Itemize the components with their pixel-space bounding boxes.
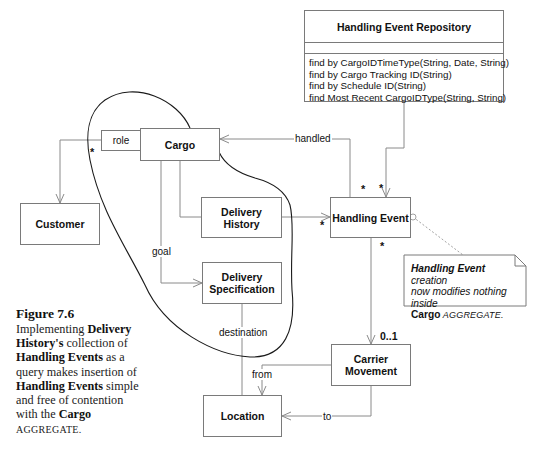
location-class: Location [203, 395, 282, 437]
figure-caption-body: Implementing Delivery History's collecti… [16, 322, 146, 438]
role-multiplicity: * [90, 147, 94, 158]
handling-event-class: Handling Event [330, 197, 411, 238]
carrier-multiplicity: 0..1 [380, 331, 398, 342]
history-multiplicity: * [320, 220, 324, 231]
note-connector-line [413, 217, 463, 255]
note: Handling Event creation now modifies not… [404, 255, 526, 306]
role-label: role [113, 135, 130, 147]
repository-attributes [305, 43, 503, 54]
customer-class: Customer [20, 203, 100, 245]
handled-association-line [220, 139, 350, 197]
event-bottom-multiplicity: * [380, 241, 384, 252]
caption-text: AGGREGATE. [16, 424, 82, 435]
cargo-history-line [180, 160, 201, 217]
figure-title: Figure 7.6 [16, 306, 146, 322]
caption-text: collection of [63, 336, 127, 350]
carrier-movement-class: Carrier Movement [331, 344, 411, 386]
note-text-1: creation [411, 275, 447, 286]
repository-association-line [386, 102, 404, 197]
handled-multiplicity: * [361, 184, 365, 195]
destination-label: destination [218, 327, 268, 338]
repository-multiplicity: * [379, 183, 383, 194]
repository-method: find Most Recent CargoIDType(String, Str… [309, 92, 499, 104]
handling-event-name: Handling Event [332, 212, 408, 224]
delivery-specification-name-line1: Delivery [222, 271, 263, 283]
repository-method: find by CargoIDTimeType(String, Date, St… [309, 57, 499, 69]
goal-label: goal [151, 246, 172, 257]
delivery-specification-class: Delivery Specification [202, 262, 282, 304]
role-qualifier-box: role [101, 130, 141, 151]
customer-name: Customer [35, 218, 84, 230]
delivery-history-name: Delivery History [202, 206, 281, 230]
note-cargo: Cargo [411, 309, 440, 320]
cargo-name: Cargo [165, 139, 195, 151]
caption-bold: Handling Events [16, 379, 103, 393]
caption-bold: Handling Events [16, 350, 103, 364]
repository-name: Handling Event Repository [305, 11, 503, 43]
note-text-2: now modifies nothing inside [411, 286, 522, 309]
carrier-movement-name-line2: Movement [345, 365, 397, 377]
caption-bold: Cargo [59, 407, 92, 421]
handling-event-repository-class: Handling Event Repository find by CargoI… [304, 10, 504, 102]
repository-method: find by Schedule ID(String) [309, 80, 499, 92]
to-label: to [322, 411, 332, 422]
note-subject: Handling Event [411, 263, 485, 274]
figure-caption: Figure 7.6 Implementing Delivery History… [16, 306, 146, 438]
caption-text: Implementing [16, 322, 87, 336]
carrier-movement-name-line1: Carrier [354, 353, 388, 365]
repository-method: find by Cargo Tracking ID(String) [309, 69, 499, 81]
delivery-history-class: Delivery History [201, 197, 282, 238]
delivery-specification-name-line2: Specification [209, 283, 274, 295]
cargo-class: Cargo [140, 128, 220, 161]
from-label: from [251, 369, 273, 380]
repository-methods: find by CargoIDTimeType(String, Date, St… [305, 54, 503, 103]
location-name: Location [221, 410, 265, 422]
role-association-line [60, 140, 101, 203]
goal-association-line [161, 160, 202, 283]
note-aggregate: AGGREGATE. [440, 310, 503, 320]
handled-label: handled [294, 133, 332, 144]
